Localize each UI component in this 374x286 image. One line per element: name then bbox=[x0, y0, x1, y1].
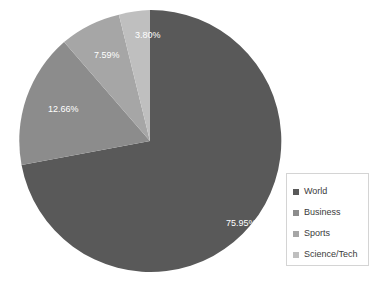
slice-value-label-business: 12.66% bbox=[48, 104, 79, 114]
legend-swatch-icon-business bbox=[293, 210, 299, 216]
pie-plot-area: 75.95% 12.66% 7.59% 3.80% bbox=[18, 10, 282, 272]
legend: World Business Sports Science/Tech bbox=[286, 173, 369, 266]
legend-item-business[interactable]: Business bbox=[293, 202, 368, 223]
slice-value-label-science-tech: 3.80% bbox=[135, 30, 161, 40]
legend-item-world[interactable]: World bbox=[293, 181, 368, 202]
legend-label-business: Business bbox=[304, 207, 341, 218]
legend-swatch-icon-science-tech bbox=[293, 252, 299, 258]
legend-swatch-icon-sports bbox=[293, 231, 299, 237]
pie-chart: 75.95% 12.66% 7.59% 3.80% World Business… bbox=[0, 0, 374, 286]
slice-value-label-world: 75.95% bbox=[226, 218, 257, 228]
slice-value-label-sports: 7.59% bbox=[94, 50, 120, 60]
legend-item-science-tech[interactable]: Science/Tech bbox=[293, 244, 368, 265]
legend-swatch-icon-world bbox=[293, 189, 299, 195]
legend-label-world: World bbox=[304, 186, 327, 197]
legend-label-sports: Sports bbox=[304, 228, 330, 239]
pie-svg bbox=[18, 10, 282, 272]
legend-item-sports[interactable]: Sports bbox=[293, 223, 368, 244]
legend-label-science-tech: Science/Tech bbox=[304, 249, 358, 260]
